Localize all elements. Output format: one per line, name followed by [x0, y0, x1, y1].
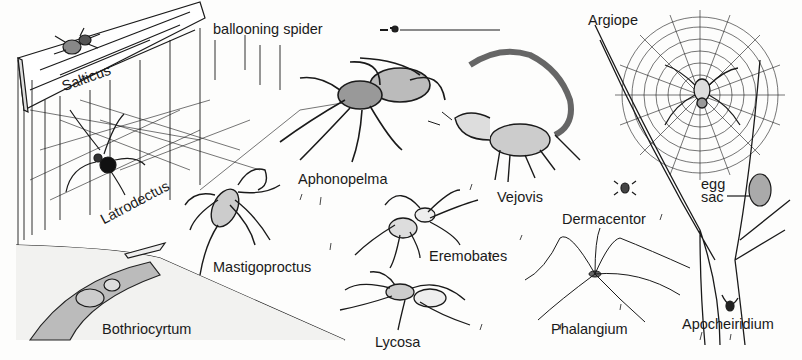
phalangium-harvestman [525, 228, 690, 322]
apocheiridium-pseudoscorpion [722, 295, 738, 311]
egg-sac [727, 174, 771, 206]
arachnid-illustration: Salticus ballooning spider Latrodectus A… [0, 0, 802, 360]
label-bothriocyrtum: Bothriocyrtum [102, 322, 191, 337]
aphonopelma-spider [280, 58, 445, 162]
label-ballooning-spider: ballooning spider [213, 22, 323, 37]
cobweb [30, 100, 260, 200]
label-phalangium: Phalangium [551, 322, 628, 337]
vejovis-scorpion [428, 52, 580, 182]
label-apocheiridium: Apocheiridium [682, 317, 774, 332]
ground-tufts [300, 184, 731, 340]
ballooning-spider [380, 26, 500, 32]
label-mastigoproctus: Mastigoproctus [213, 260, 311, 275]
label-egg-sac: egg sac [701, 178, 725, 204]
lycosa-spider [340, 272, 470, 330]
dermacentor-tick [614, 181, 636, 195]
label-vejovis: Vejovis [497, 190, 543, 205]
line-art [0, 0, 802, 360]
label-dermacentor: Dermacentor [562, 212, 646, 227]
label-aphonopelma: Aphonopelma [298, 172, 388, 187]
label-lycosa: Lycosa [375, 335, 420, 350]
label-eremobates: Eremobates [429, 249, 507, 264]
label-argiope: Argiope [588, 13, 638, 28]
wooden-beam [18, 2, 205, 112]
label-sac: sac [701, 191, 725, 204]
